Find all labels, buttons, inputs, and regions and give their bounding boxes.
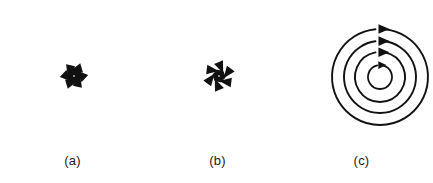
flow-arrowhead (378, 36, 389, 46)
spiral-arms-group (213, 70, 225, 82)
phase-portrait-figure: (a) (b) (c) (0, 0, 433, 183)
trajectory-curve (368, 65, 392, 89)
panel-unstable-spiral: (a) (0, 0, 145, 183)
trajectory-curve (355, 52, 405, 102)
panel-stable-spiral: (b) (145, 0, 290, 183)
arrowheads-group (378, 24, 389, 69)
panel-label-a: (a) (0, 153, 145, 168)
arrowheads-group (60, 63, 88, 89)
flow-arrowhead (378, 47, 389, 57)
flow-arrowhead (378, 61, 386, 69)
flow-arrowhead (224, 66, 235, 78)
flow-arrowhead (378, 24, 389, 34)
panel-center-orbits: (c) (290, 0, 433, 183)
panel-label-b: (b) (145, 153, 290, 168)
arrowheads-group (203, 60, 234, 92)
flow-arrowhead (203, 74, 214, 86)
panel-label-c: (c) (290, 153, 433, 168)
